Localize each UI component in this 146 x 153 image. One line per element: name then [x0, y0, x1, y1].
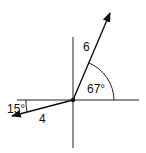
vector-4-label: 4: [39, 112, 46, 126]
angle-15-label: 15°: [7, 102, 25, 116]
angle-arc-15: [26, 100, 27, 112]
origin-point: [71, 98, 75, 102]
vector-diagram: 6 67° 15° 4: [0, 0, 146, 153]
vector-6-label: 6: [83, 40, 90, 54]
angle-67-label: 67°: [87, 82, 105, 96]
